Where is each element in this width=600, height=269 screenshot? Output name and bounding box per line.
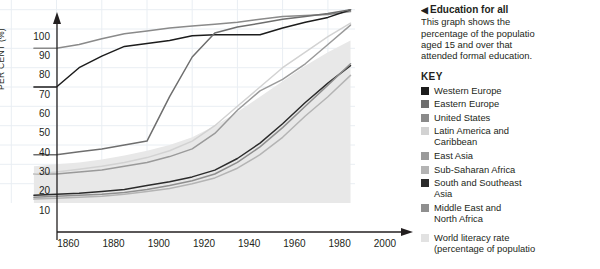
key-item[interactable]: South and SoutheastAsia [421,177,600,199]
key-item-label: South and SoutheastAsia [434,177,522,199]
education-chart-figure: PER CENT (%) 102030405060708090100 18601… [0,0,600,269]
key-item[interactable]: East Asia [421,150,600,161]
key-item[interactable]: Eastern Europe [421,98,600,109]
key-item-label: Western Europe [434,85,502,96]
sidebar: ◀Education for all This graph shows thep… [421,4,600,269]
key-swatch-icon [421,152,429,160]
key-item[interactable]: Middle East andNorth Africa [421,202,600,224]
key-item-label: Sub-Saharan Africa [434,164,515,175]
key-swatch-icon [421,234,429,242]
chart-panel: PER CENT (%) 102030405060708090100 18601… [0,0,415,269]
key-swatch-icon [421,179,429,187]
key-item[interactable]: World literacy rate(percentage of popula… [421,232,600,254]
sidebar-description-line: This graph shows the [421,16,600,27]
key-swatch-icon [421,100,429,108]
key-list: Western EuropeEastern EuropeUnited State… [421,85,600,254]
key-item-label: Middle East andNorth Africa [434,202,501,224]
axis-arrows [45,8,420,248]
key-swatch-icon [421,204,429,212]
key-swatch-icon [421,87,429,95]
key-item[interactable]: Sub-Saharan Africa [421,164,600,175]
sidebar-description-line: attended formal education. [421,50,600,61]
sidebar-description: This graph shows thepercentage of the po… [421,16,600,61]
key-item-label: United States [434,112,490,123]
key-item-label: Eastern Europe [434,98,499,109]
left-triangle-icon: ◀ [421,5,428,15]
key-item-label: Latin America andCaribbean [434,125,509,147]
y-axis-title: PER CENT (%) [0,28,6,90]
sidebar-description-line: percentage of the populatio [421,28,600,39]
key-swatch-icon [421,114,429,122]
key-item-label: World literacy rate(percentage of popula… [434,232,535,254]
sidebar-title-row: ◀Education for all [421,4,600,16]
key-heading: KEY [421,71,600,82]
key-item[interactable]: Latin America andCaribbean [421,125,600,147]
key-swatch-icon [421,127,429,135]
key-item-label: East Asia [434,150,473,161]
sidebar-header: ◀Education for all This graph shows thep… [421,4,600,62]
key-item[interactable]: Western Europe [421,85,600,96]
sidebar-title: Education for all [430,4,508,15]
key-swatch-icon [421,166,429,174]
key-item[interactable]: United States [421,112,600,123]
sidebar-description-line: aged 15 and over that [421,39,600,50]
